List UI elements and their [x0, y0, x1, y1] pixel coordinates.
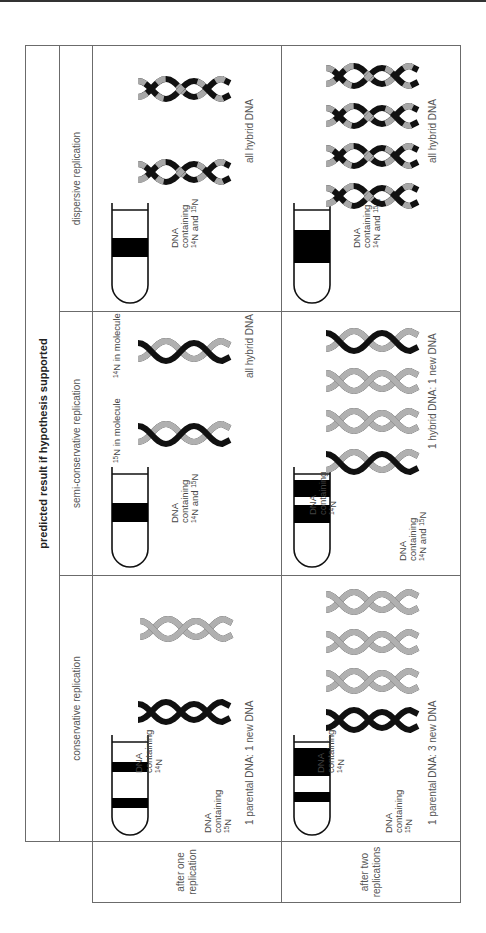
- dna-helix-dispersed: [322, 101, 422, 131]
- dna-helix-new-14n: [322, 587, 422, 617]
- centrifuge-tube-dispersive-two: [292, 201, 334, 305]
- dna-helix-new-14n: [322, 666, 422, 696]
- row-label-line: after one: [175, 849, 187, 895]
- dna-helix-new-14n: [322, 627, 422, 657]
- dna-helix-dispersed: [322, 61, 422, 91]
- header-dispersive-text: dispersive replication: [71, 132, 82, 225]
- dna-helix-hybrid: [322, 326, 422, 356]
- band-hybrid: [112, 238, 148, 257]
- label-dna-hybrid: DNA containing 14N and 15N: [398, 512, 428, 561]
- dna-helix-hybrid: [322, 447, 422, 477]
- label-15n-in-molecule: 15N in molecule: [112, 398, 122, 463]
- caption-dispersive-two: all hybrid DNA: [427, 99, 438, 163]
- dna-helix-new-14n: [136, 614, 236, 644]
- row-label-line: after two: [359, 847, 371, 898]
- replication-table: predicted result if hypothesis supported…: [0, 0, 486, 933]
- dna-helix-new-14n: [322, 406, 422, 436]
- caption-semi-one: all hybrid DNA: [244, 314, 255, 378]
- label-14n-in-molecule: 14N in molecule: [112, 313, 122, 378]
- caption-conservative-two: 1 parental DNA: 3 new DNA: [427, 700, 438, 825]
- row-label-after-one: after onereplication: [92, 841, 282, 903]
- dna-helix-parental-15n: [322, 705, 422, 735]
- dna-helix-hybrid: [134, 419, 234, 449]
- centrifuge-tube-dispersive-one: [110, 201, 152, 305]
- dna-helix-dispersed: [322, 141, 422, 171]
- caption-semi-two: 1 hybrid DNA: 1 new DNA: [427, 333, 438, 449]
- label-dna-14n: DNA containing 14N: [134, 730, 164, 773]
- row-label-line: replications: [371, 847, 383, 898]
- dna-helix-parental-15n: [134, 697, 234, 727]
- header-dispersive: dispersive replication: [59, 45, 93, 312]
- band-hybrid: [112, 503, 148, 522]
- dna-helix-dispersed: [322, 181, 422, 211]
- label-dna-14n: DNA containing 14N: [316, 730, 346, 773]
- dna-helix-hybrid: [134, 336, 234, 366]
- header-semi-conservative: semi-conservative replication: [59, 311, 93, 576]
- label-dna-hybrid: DNA containing 14N and 15N: [170, 199, 200, 248]
- band-15n: [112, 798, 148, 808]
- band-hybrid: [294, 230, 330, 263]
- label-dna-15n: DNA containing 15N: [203, 790, 233, 833]
- table-title-text: predicted result if hypothesis supported: [37, 338, 49, 548]
- header-conservative-text: conservative replication: [71, 656, 82, 761]
- dna-helix-dispersed: [134, 157, 234, 187]
- band-15n: [294, 792, 330, 802]
- header-conservative: conservative replication: [59, 575, 93, 842]
- label-dna-14n: DNA containing 14N: [308, 472, 338, 515]
- centrifuge-tube-semi-one: [110, 465, 152, 569]
- caption-dispersive-one: all hybrid DNA: [244, 99, 255, 163]
- table-title: predicted result if hypothesis supported: [25, 45, 60, 842]
- row-label-after-two: after tworeplications: [281, 841, 461, 903]
- caption-conservative-one: 1 parental DNA: 1 new DNA: [244, 700, 255, 825]
- dna-helix-new-14n: [322, 366, 422, 396]
- dna-helix-dispersed: [134, 74, 234, 104]
- row-label-line: replication: [187, 849, 199, 895]
- label-dna-15n: DNA containing 15N: [384, 790, 414, 833]
- label-dna-hybrid: DNA containing 14N and 15N: [170, 474, 200, 523]
- header-semi-text: semi-conservative replication: [71, 379, 82, 508]
